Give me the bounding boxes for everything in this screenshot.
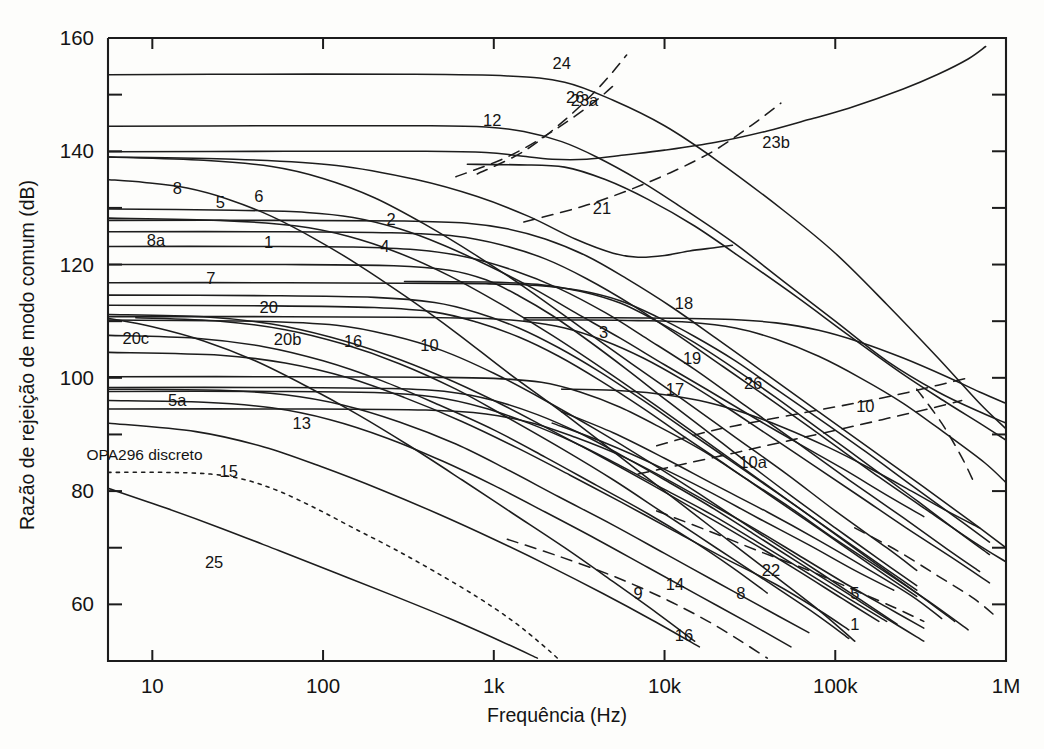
curve-label-8-lower: 8 xyxy=(736,584,745,602)
curve-label-16-solid: 16 xyxy=(344,332,362,350)
curve-label-1-lower: 1 xyxy=(850,615,859,633)
y-tick-label: 120 xyxy=(60,253,94,276)
y-tick-label: 60 xyxy=(71,592,94,615)
curve-label-23a: 23a xyxy=(571,91,599,109)
curve-label-26-lower: 26 xyxy=(744,374,762,392)
y-tick-label: 140 xyxy=(60,139,94,162)
curve-label-17: 17 xyxy=(666,380,684,398)
curve-label-25: 25 xyxy=(205,553,223,571)
cmrr-vs-frequency-chart: 26122186528a1472020c20b16103181917265a13… xyxy=(0,0,1044,749)
x-tick-label: 100k xyxy=(813,674,858,697)
curve-label-3: 3 xyxy=(599,323,608,341)
curve-label-19: 19 xyxy=(683,349,701,367)
curve-label-8a: 8a xyxy=(147,231,166,249)
curve-label-2: 2 xyxy=(386,210,395,228)
curve-label-16-dashed: 16 xyxy=(675,626,693,644)
curve-label-12: 12 xyxy=(483,111,501,129)
curve-label-20: 20 xyxy=(259,298,277,316)
y-tick-label: 160 xyxy=(60,26,94,49)
curve-label-7: 7 xyxy=(206,269,215,287)
curve-label-10a: 10a xyxy=(739,453,767,471)
curve-label-22: 22 xyxy=(762,561,780,579)
curve-label-8: 8 xyxy=(173,179,182,197)
curve-label-10-dashed: 10 xyxy=(856,397,874,415)
curve-label-9: 9 xyxy=(633,584,642,602)
x-tick-label: 100 xyxy=(306,674,340,697)
curve-label-6: 6 xyxy=(254,187,263,205)
curve-label-10: 10 xyxy=(420,336,438,354)
curve-label-21: 21 xyxy=(593,199,611,217)
curve-label-15: 15 xyxy=(219,462,237,480)
figure-background xyxy=(0,0,1044,749)
curve-label-20c: 20c xyxy=(122,329,149,347)
x-tick-label: 10k xyxy=(648,674,682,697)
x-tick-label: 1k xyxy=(483,674,505,697)
y-tick-label: 80 xyxy=(71,479,94,502)
curve-label-23b: 23b xyxy=(762,133,790,151)
curve-label-13: 13 xyxy=(293,414,311,432)
y-axis-title: Razão de rejeição de modo comum (dB) xyxy=(16,180,38,530)
curve-label-5a: 5a xyxy=(168,391,187,409)
x-tick-label: 1M xyxy=(992,674,1020,697)
curve-label-1-upper: 1 xyxy=(264,233,273,251)
curve-label-20b: 20b xyxy=(274,330,302,348)
curve-label-4: 4 xyxy=(380,237,389,255)
curve-label-18: 18 xyxy=(675,294,693,312)
curve-label-5-dashed: 5 xyxy=(850,584,859,602)
x-tick-label: 10 xyxy=(141,674,164,697)
chart-figure: 26122186528a1472020c20b16103181917265a13… xyxy=(0,0,1044,749)
y-tick-label: 100 xyxy=(60,366,94,389)
curve-label-14: 14 xyxy=(666,575,684,593)
x-axis-title: Frequência (Hz) xyxy=(487,704,627,726)
curve-label-OPA296: OPA296 discreto xyxy=(87,446,203,463)
curve-label-24: 24 xyxy=(553,54,571,72)
curve-label-5-upper: 5 xyxy=(216,193,225,211)
